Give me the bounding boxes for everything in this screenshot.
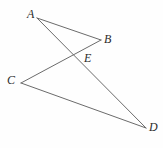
geometry-figure: A B E C D [0, 0, 163, 148]
point-label-c: C [7, 74, 15, 86]
point-label-a: A [27, 8, 34, 20]
point-label-e: E [84, 52, 91, 64]
segment-ab [37, 18, 101, 40]
point-label-d: D [149, 121, 158, 133]
point-label-b: B [104, 33, 111, 45]
segment-ad [37, 18, 146, 128]
figure-canvas [0, 0, 163, 148]
segment-cd [21, 83, 146, 128]
